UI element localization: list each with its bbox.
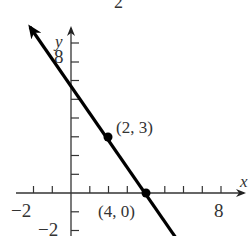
x-tick-label-neg2: −2: [11, 200, 31, 221]
y-tick-label-neg2: −2: [38, 219, 58, 236]
x-ticks: [34, 186, 222, 193]
y-ticks: [71, 43, 79, 231]
partial-header-text: 2: [114, 0, 123, 12]
point-4-0: [142, 189, 151, 198]
point-2-3: [104, 133, 113, 142]
point-label-2-3: (2, 3): [116, 118, 153, 137]
y-axis: y 8 −2: [38, 28, 79, 236]
graph-canvas: 2 x −2 8 y: [0, 0, 252, 236]
x-tick-label-8: 8: [214, 200, 224, 221]
x-axis-label: x: [239, 172, 248, 191]
point-label-4-0: (4, 0): [98, 202, 135, 221]
